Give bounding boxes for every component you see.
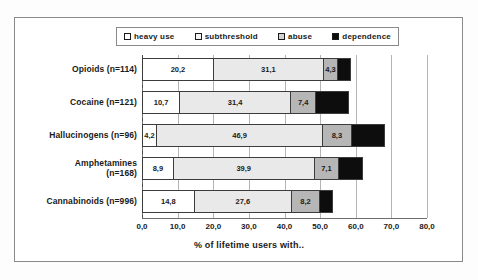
legend-item-dependence: dependence [332, 32, 391, 41]
legend-item-heavy-use: heavy use [124, 32, 175, 41]
bar-segment-abuse: 4,3 [323, 58, 338, 81]
legend-label-heavy-use: heavy use [134, 32, 175, 41]
bar-segment-subthreshold: 27,6 [194, 190, 292, 213]
bar-segment-abuse: 8,3 [322, 124, 352, 147]
legend-swatch-heavy-use [124, 33, 131, 40]
bar-segment-heavy-use: 20,2 [142, 58, 214, 81]
gridline-70 [391, 55, 392, 218]
x-tick-label-60: 60,0 [348, 222, 364, 231]
legend-label-dependence: dependence [342, 32, 391, 41]
y-label-hallucinogens: Hallucinogens (n=96) [0, 130, 137, 140]
x-tick-label-20: 20,0 [206, 222, 222, 231]
bar-row-hallucinogens: 4,2 46,9 8,3 [142, 124, 384, 147]
chart-figure: heavy use subthreshold abuse dependence … [0, 0, 478, 280]
y-label-cocaine: Cocaine (n=121) [0, 97, 137, 107]
bar-segment-subthreshold: 31,4 [179, 91, 291, 114]
bar-segment-subthreshold: 46,9 [156, 124, 323, 147]
bar-segment-abuse: 7,4 [290, 91, 316, 114]
bar-segment-heavy-use: 10,7 [142, 91, 180, 114]
bar-row-opioids: 20,2 31,1 4,3 [142, 58, 350, 81]
bar-segment-abuse: 8,2 [291, 190, 320, 213]
legend-item-abuse: abuse [278, 32, 312, 41]
gridline-80 [427, 55, 428, 218]
x-axis-line [142, 218, 427, 219]
bar-segment-dependence [337, 58, 351, 81]
axis-tick [142, 55, 143, 58]
axis-tick [142, 85, 143, 88]
axis-tick [142, 184, 143, 187]
legend-item-subthreshold: subthreshold [195, 32, 258, 41]
bar-segment-abuse: 7,1 [314, 157, 339, 180]
y-label-amphetamines-n: (n=168) [0, 168, 137, 178]
bar-segment-heavy-use: 14,8 [142, 190, 195, 213]
legend-swatch-dependence [332, 33, 339, 40]
legend-swatch-subthreshold [195, 33, 202, 40]
bar-segment-dependence [319, 190, 333, 213]
x-axis-title: % of lifetime users with.. [0, 240, 478, 250]
x-tick-label-80: 80,0 [419, 222, 435, 231]
bar-segment-subthreshold: 39,9 [173, 157, 315, 180]
chart-legend: heavy use subthreshold abuse dependence [116, 27, 399, 46]
y-label-opioids: Opioids (n=114) [0, 64, 137, 74]
axis-tick [142, 118, 143, 121]
bar-segment-dependence [315, 91, 349, 114]
bar-segment-dependence [338, 157, 363, 180]
y-axis-labels: Opioids (n=114) Cocaine (n=121) Hallucin… [0, 55, 137, 218]
y-label-cannabinoids: Cannabinoids (n=996) [0, 196, 137, 206]
x-tick-label-40: 40,0 [277, 222, 293, 231]
bar-segment-heavy-use: 4,2 [142, 124, 157, 147]
bar-row-cannabinoids: 14,8 27,6 8,2 [142, 190, 332, 213]
axis-tick [142, 151, 143, 154]
bar-segment-dependence [351, 124, 385, 147]
bar-segment-heavy-use: 8,9 [142, 157, 174, 180]
x-tick-label-10: 10,0 [170, 222, 186, 231]
x-tick-label-70: 70,0 [384, 222, 400, 231]
legend-swatch-abuse [278, 33, 285, 40]
x-tick-label-50: 50,0 [312, 222, 328, 231]
bar-segment-subthreshold: 31,1 [213, 58, 324, 81]
bar-row-amphetamines: 8,9 39,9 7,1 [142, 157, 362, 180]
x-tick-label-0: 0,0 [136, 222, 147, 231]
x-tick-label-30: 30,0 [241, 222, 257, 231]
legend-label-abuse: abuse [288, 32, 312, 41]
y-label-amphetamines: Amphetamines [0, 158, 137, 168]
bar-row-cocaine: 10,7 31,4 7,4 [142, 91, 348, 114]
legend-label-subthreshold: subthreshold [205, 32, 258, 41]
plot-area: 20,2 31,1 4,3 10,7 31,4 7,4 4,2 46,9 8,3… [142, 55, 427, 218]
